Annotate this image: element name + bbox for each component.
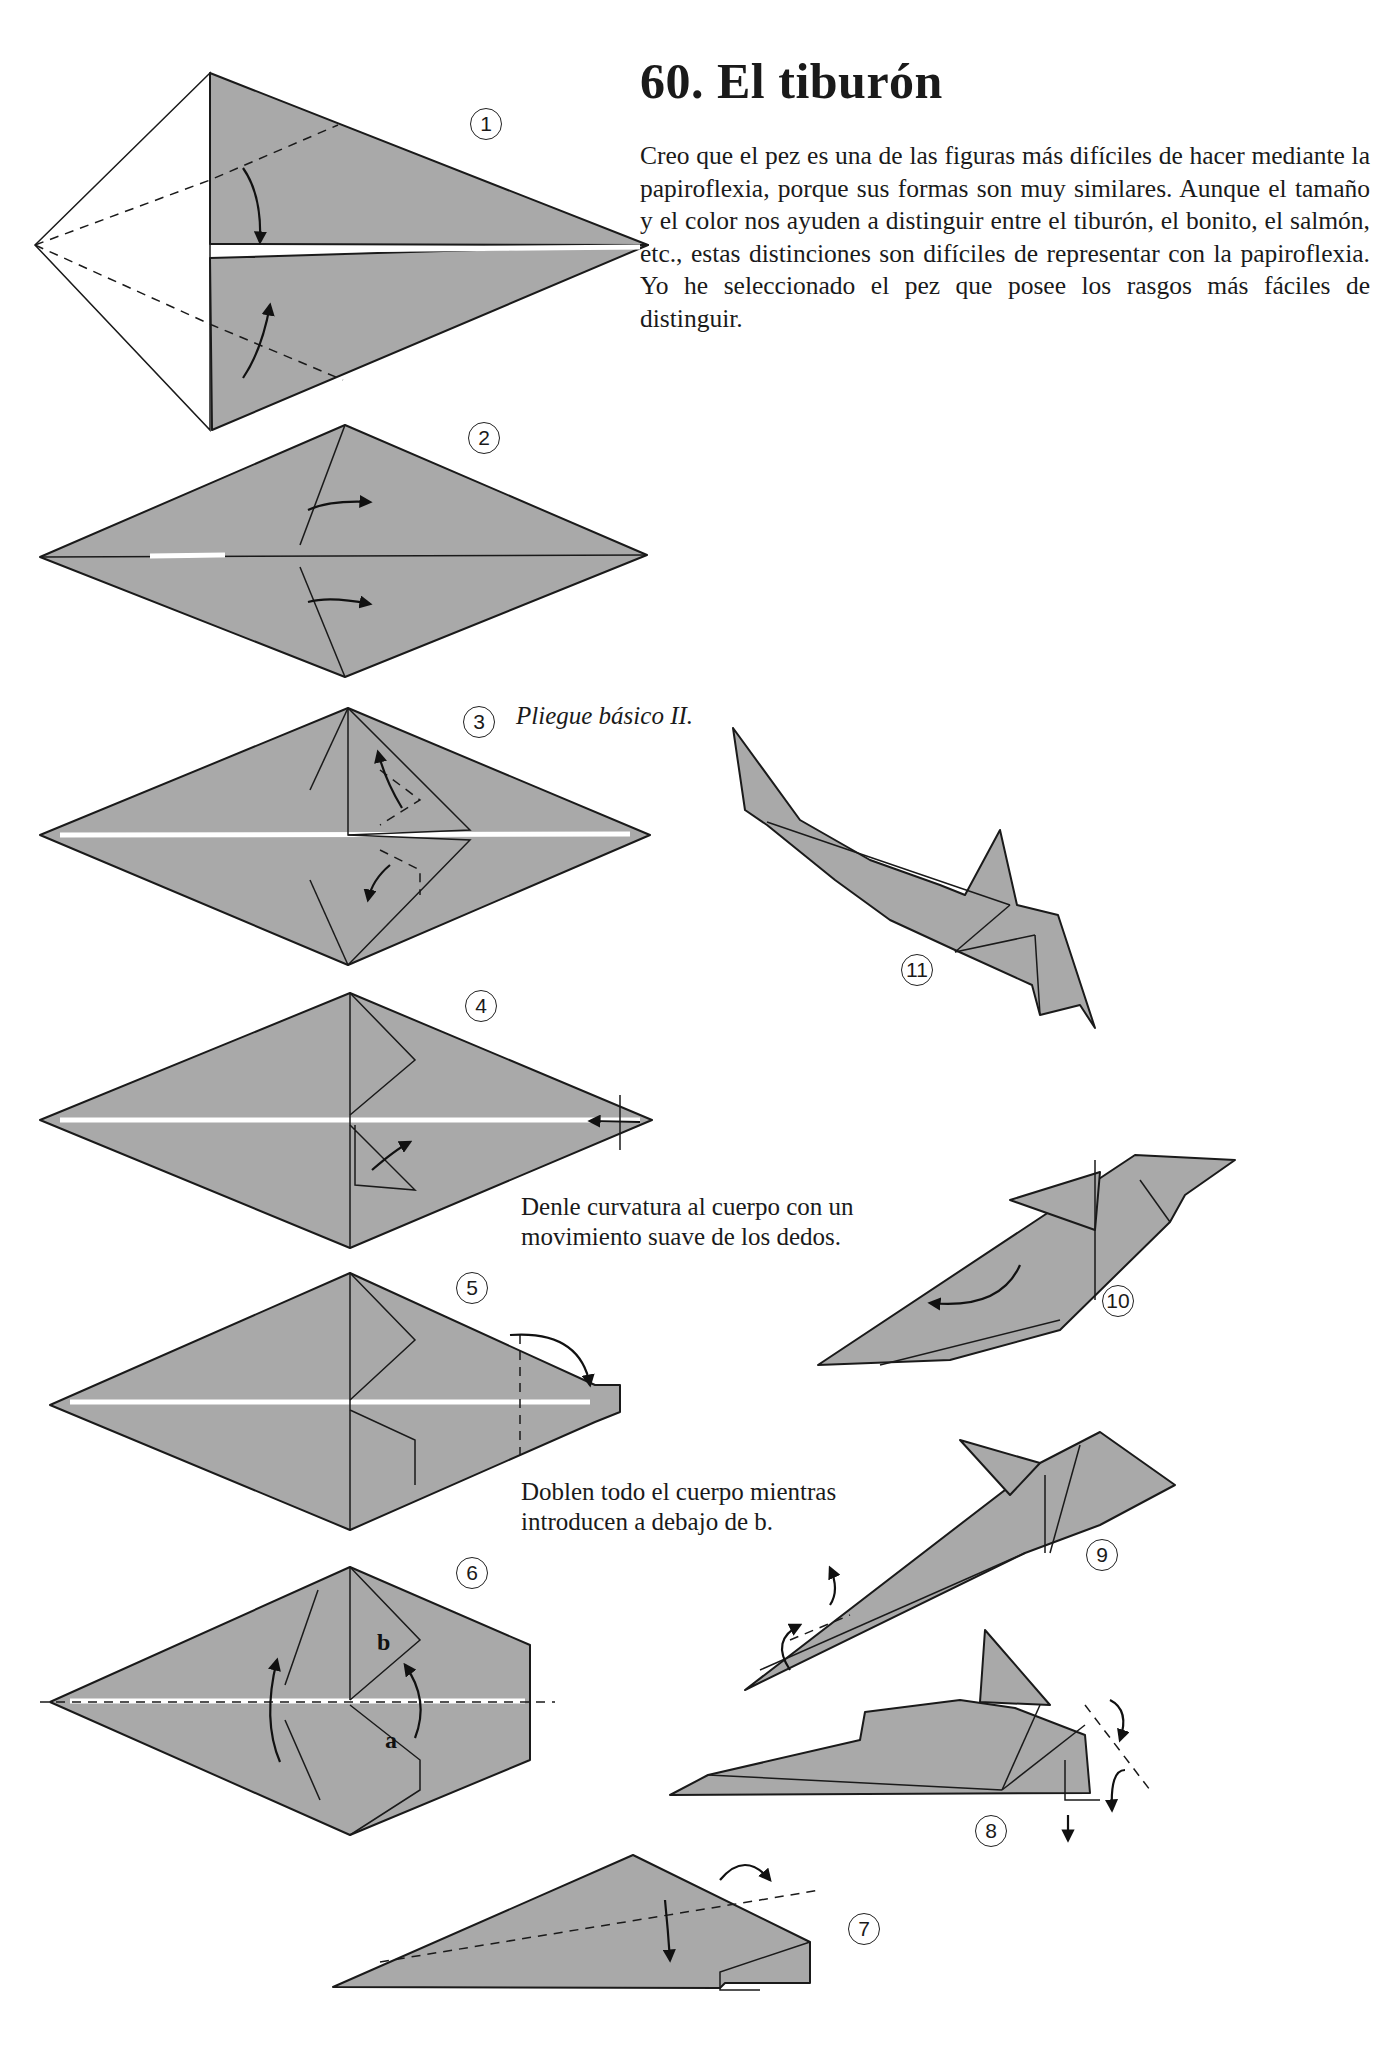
flap-a-label: a bbox=[385, 1727, 397, 1753]
step-number-10: 10 bbox=[1102, 1285, 1134, 1317]
step-number-4: 4 bbox=[465, 990, 497, 1022]
step-number-1: 1 bbox=[470, 108, 502, 140]
step-number-9: 9 bbox=[1086, 1539, 1118, 1571]
step-number-8: 8 bbox=[975, 1815, 1007, 1847]
step-2-diagram bbox=[40, 425, 647, 677]
step-1-diagram bbox=[35, 73, 648, 430]
step-3-caption: Pliegue básico II. bbox=[516, 702, 693, 730]
step-number-11: 11 bbox=[901, 954, 933, 986]
step-number-2: 2 bbox=[468, 422, 500, 454]
fold-instruction: Doblen todo el cuerpo mientras introduce… bbox=[521, 1477, 941, 1537]
step-number-5: 5 bbox=[456, 1272, 488, 1304]
origami-diagrams: b a bbox=[0, 0, 1379, 2054]
step-10-diagram bbox=[818, 1155, 1235, 1365]
step-number-6: 6 bbox=[456, 1557, 488, 1589]
step-6-diagram: b a bbox=[40, 1567, 555, 1835]
step-number-7: 7 bbox=[848, 1913, 880, 1945]
curve-instruction: Denle curvatura al cuerpo con un movimie… bbox=[521, 1192, 961, 1252]
step-8-diagram bbox=[670, 1630, 1150, 1840]
step-7-diagram bbox=[333, 1855, 820, 1990]
step-number-3: 3 bbox=[463, 706, 495, 738]
step-3-diagram bbox=[40, 708, 650, 965]
flap-b-label: b bbox=[377, 1629, 390, 1655]
